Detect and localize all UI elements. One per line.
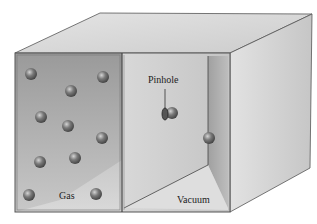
effusion-diagram <box>0 0 317 224</box>
molecule <box>62 120 74 132</box>
vacuum-label: Vacuum <box>177 194 210 205</box>
pinhole <box>162 108 168 120</box>
pinhole-label: Pinhole <box>148 74 179 85</box>
molecule <box>25 68 37 80</box>
molecule <box>34 156 46 168</box>
molecule <box>23 189 35 201</box>
molecule <box>97 71 109 83</box>
molecule <box>96 132 108 144</box>
molecule-vacuum <box>203 132 215 144</box>
molecule <box>69 152 81 164</box>
molecule <box>90 188 102 200</box>
molecule <box>35 111 47 123</box>
molecule <box>65 85 77 97</box>
gas-label: Gas <box>59 190 75 201</box>
